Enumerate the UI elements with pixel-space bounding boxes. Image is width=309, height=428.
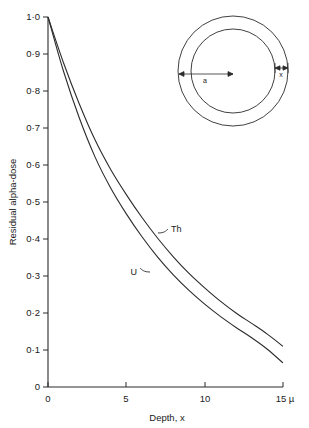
- y-tick-label: 0·7: [26, 122, 40, 133]
- x-axis-title: Depth, x: [149, 412, 185, 423]
- curve-label-leader-u: [140, 268, 150, 272]
- y-tick-label: 0·6: [26, 159, 40, 170]
- concentric-shell-diagram: a x: [178, 16, 288, 126]
- y-tick-label: 0·8: [26, 85, 40, 96]
- x-tick-label: 5: [123, 393, 128, 404]
- y-axis-title: Residual alpha-dose: [7, 159, 18, 246]
- radius-arrowhead-left: [179, 72, 184, 77]
- curve-label-u: U: [131, 267, 138, 277]
- radius-arrowhead-right: [228, 72, 233, 77]
- alpha-dose-figure: 1·0 0·9 0·8 0·7 0·6 0·5 0·4 0·3 0·2 0·1 …: [0, 0, 309, 428]
- y-tick-label: 0·4: [26, 233, 40, 244]
- y-tick-label: 1·0: [26, 11, 40, 22]
- y-tick-label: 0·2: [26, 307, 40, 318]
- y-tick-label: 0: [35, 381, 40, 392]
- thickness-arrowhead-left: [275, 66, 280, 70]
- curve-th: [48, 17, 283, 346]
- curve-label-leader-th: [158, 229, 168, 233]
- y-tick-label: 0·1: [26, 344, 40, 355]
- x-tick-label: 10: [200, 393, 211, 404]
- x-axis-tick-labels: 0 5 10 15 µ: [45, 393, 295, 404]
- x-tick-label: 0: [45, 393, 50, 404]
- thickness-arrowhead-right: [283, 66, 288, 70]
- y-tick-label: 0·9: [26, 48, 40, 59]
- curve-label-th: Th: [171, 224, 182, 234]
- curve-u: [48, 17, 283, 363]
- radius-label: a: [203, 77, 207, 84]
- y-tick-label: 0·5: [26, 196, 40, 207]
- thickness-label: x: [279, 71, 283, 78]
- outer-circle: [178, 16, 288, 126]
- y-axis-ticks: [43, 17, 48, 387]
- chart-canvas: 1·0 0·9 0·8 0·7 0·6 0·5 0·4 0·3 0·2 0·1 …: [0, 0, 309, 428]
- y-axis-tick-labels: 1·0 0·9 0·8 0·7 0·6 0·5 0·4 0·3 0·2 0·1 …: [26, 11, 40, 392]
- inner-circle: [191, 29, 275, 113]
- y-tick-label: 0·3: [26, 270, 40, 281]
- x-tick-label: 15 µ: [276, 393, 295, 404]
- x-axis-ticks: [48, 382, 283, 387]
